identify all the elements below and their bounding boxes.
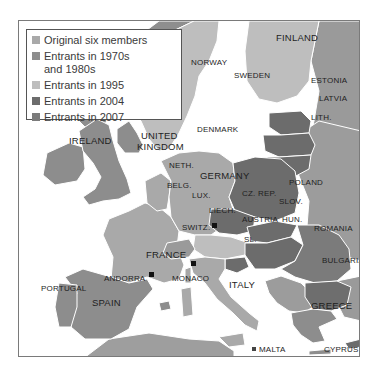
monaco-marker-icon — [191, 261, 196, 266]
country-ireland — [43, 143, 85, 185]
legend-item-original-six: Original six members — [32, 34, 181, 47]
malta-marker-icon — [252, 347, 256, 351]
legend-label: Entrants in 1970s and 1980s — [44, 50, 134, 76]
label-monaco: MONACO — [172, 274, 209, 283]
label-andorra: ANDORRA — [104, 274, 145, 283]
label-france: FRANCE — [146, 250, 186, 259]
map-frame: Original six members Entrants in 1970s a… — [18, 20, 360, 357]
label-luxembourg: LUX. — [192, 191, 211, 200]
label-switzerland: SWITZ. — [182, 223, 210, 232]
label-austria: AUSTRIA — [242, 215, 278, 224]
label-norway: NORWAY — [191, 58, 227, 67]
legend-item-2004: Entrants in 2004 — [32, 95, 181, 108]
label-belgium: BELG. — [167, 181, 192, 190]
label-bulgaria: BULGARIA — [322, 256, 360, 265]
legend-swatch — [32, 113, 40, 121]
label-greece: GREECE — [311, 301, 352, 310]
country-austria — [193, 235, 249, 259]
label-romania: ROMANIA — [314, 224, 353, 233]
label-sweden: SWEDEN — [234, 71, 270, 80]
legend-item-1995: Entrants in 1995 — [32, 79, 181, 92]
label-finland: FINLAND — [276, 33, 318, 42]
legend-item-1970s-1980s: Entrants in 1970s and 1980s — [32, 50, 181, 76]
label-portugal: PORTUGAL — [41, 284, 86, 293]
country-estonia — [269, 111, 311, 135]
label-estonia: ESTONIA — [311, 76, 347, 85]
label-hungary: HUN. — [282, 215, 302, 224]
liechtenstein-marker-icon — [212, 223, 217, 228]
label-denmark: DENMARK — [197, 125, 238, 134]
label-germany: GERMANY — [200, 171, 249, 180]
legend-label: Original six members — [44, 34, 147, 47]
label-lithuania: LITH. — [311, 113, 332, 122]
label-poland: POLAND — [289, 178, 323, 187]
label-czech-republic: CZ. REP. — [242, 189, 276, 198]
label-slovenia: SL. — [244, 235, 257, 244]
legend-label: Entrants in 2007 — [44, 111, 124, 124]
label-latvia: LATVIA — [319, 94, 347, 103]
legend-item-2007: Entrants in 2007 — [32, 111, 181, 124]
island-balearic — [159, 301, 171, 311]
label-cyprus: CYPRUS — [324, 345, 359, 354]
label-malta: MALTA — [259, 345, 285, 354]
label-united-kingdom-2: KINGDOM — [137, 142, 184, 151]
label-spain: SPAIN — [92, 298, 121, 307]
country-slovenia — [225, 257, 249, 273]
andorra-marker-icon — [149, 272, 154, 277]
legend-swatch — [32, 97, 40, 105]
island-sardinia — [181, 287, 193, 317]
label-netherlands: NETH. — [169, 161, 194, 170]
legend-swatch — [32, 52, 40, 60]
legend-label: Entrants in 1995 — [44, 79, 124, 92]
label-united-kingdom-1: UNITED — [141, 131, 178, 140]
country-latvia — [263, 133, 315, 157]
label-liechtenstein: LIECH. — [209, 206, 236, 215]
legend-swatch — [32, 81, 40, 89]
country-italy — [189, 257, 259, 331]
legend-swatch — [32, 36, 40, 44]
country-greece — [291, 309, 337, 343]
label-ireland: IRELAND — [69, 136, 112, 145]
legend-label: Entrants in 2004 — [44, 95, 124, 108]
label-italy: ITALY — [229, 280, 255, 289]
label-slovakia: SLOV. — [279, 197, 303, 206]
legend: Original six members Entrants in 1970s a… — [26, 29, 182, 120]
